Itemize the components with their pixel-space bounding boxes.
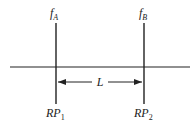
rp1-label: RP1 [45,106,65,122]
lens-a-label: fA [50,6,58,22]
diagram: L fA fB RP1 RP2 [0,0,196,131]
rp2-label: RP2 [133,106,153,122]
diagram-canvas: L fA fB RP1 RP2 [0,0,196,131]
distance-label: L [96,75,104,89]
lens-b-label: fB [139,6,147,22]
